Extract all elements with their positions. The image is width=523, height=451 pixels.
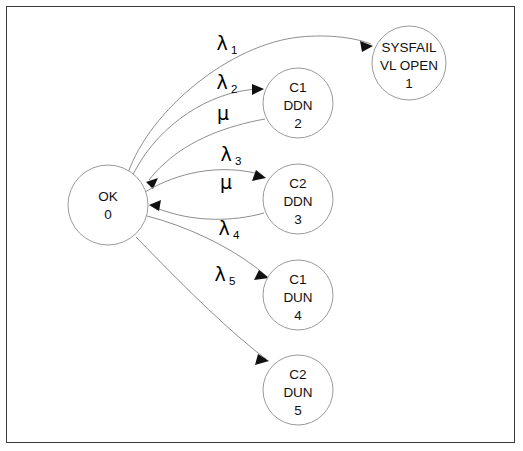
edge-label-lambda5: λ 5: [214, 263, 235, 287]
node-c2ddn-line2: DDN: [283, 194, 312, 209]
arrowhead-mu-2: [146, 178, 158, 189]
edge-label-lambda3: λ 3: [220, 143, 241, 167]
edge-label-lambda5-symbol: λ: [214, 263, 225, 285]
edge-path-lambda5: [136, 237, 266, 359]
edge-label-lambda1-symbol: λ: [216, 32, 227, 54]
node-c2ddn-line3: 3: [294, 212, 302, 227]
arrowhead-lambda3: [252, 170, 266, 181]
node-c2dun-line2: DUN: [283, 385, 312, 400]
node-c1ddn[interactable]: C1 DDN 2: [263, 68, 333, 138]
node-sysfail-line3: 1: [405, 76, 413, 91]
node-c2dun-line1: C2: [289, 367, 306, 382]
node-sysfail-line2: VL OPEN: [380, 58, 438, 73]
node-c1dun[interactable]: C1 DUN 4: [263, 260, 333, 330]
node-c1ddn-line2: DDN: [283, 98, 312, 113]
edge-c2ddn-to-ok: [149, 200, 264, 219]
node-c1dun-line3: 4: [294, 308, 302, 323]
edge-label-lambda2-subscript: 2: [231, 83, 237, 95]
edge-ok-to-c2dun: [136, 237, 269, 365]
edge-ok-to-c1dun: [147, 216, 269, 280]
edge-label-mu-2: μ: [217, 102, 229, 124]
edge-label-lambda4-subscript: 4: [233, 229, 240, 241]
edge-label-lambda1-subscript: 1: [231, 44, 237, 56]
node-c1dun-line1: C1: [289, 272, 306, 287]
edge-label-lambda3-symbol: λ: [220, 143, 231, 165]
node-sysfail[interactable]: SYSFAIL VL OPEN 1: [372, 26, 446, 100]
node-c2dun-line3: 5: [294, 403, 302, 418]
node-ok-circle[interactable]: [68, 165, 148, 245]
edge-ok-to-sysfail: [128, 36, 373, 173]
diagram-canvas: OK 0 SYSFAIL VL OPEN 1 C1 DDN 2 C2: [0, 0, 523, 451]
node-group: OK 0 SYSFAIL VL OPEN 1 C1 DDN 2 C2: [68, 26, 446, 425]
edge-label-lambda2: λ 2: [216, 71, 237, 95]
edge-label-lambda5-subscript: 5: [229, 275, 235, 287]
edge-path-lambda2: [131, 89, 261, 179]
arrowhead-lambda2: [252, 84, 264, 95]
node-c2ddn[interactable]: C2 DDN 3: [263, 164, 333, 234]
edge-label-lambda1: λ 1: [216, 32, 237, 56]
arrowhead-mu-3: [149, 200, 161, 211]
edge-ok-to-c2ddn: [145, 170, 266, 192]
node-c2ddn-line1: C2: [289, 176, 306, 191]
edge-label-lambda2-symbol: λ: [216, 71, 227, 93]
node-c1dun-line2: DUN: [283, 290, 312, 305]
edge-label-mu-2-symbol: μ: [217, 102, 229, 124]
edge-label-mu-3: μ: [220, 171, 232, 193]
edge-label-mu-3-symbol: μ: [220, 171, 232, 193]
edge-label-lambda3-subscript: 3: [235, 155, 241, 167]
edge-label-lambda4-symbol: λ: [218, 217, 229, 239]
edge-label-lambda4: λ 4: [218, 217, 240, 241]
state-diagram-figure: OK 0 SYSFAIL VL OPEN 1 C1 DDN 2 C2: [0, 0, 523, 451]
node-c1ddn-line1: C1: [289, 80, 306, 95]
edge-c1ddn-to-ok: [146, 119, 265, 189]
node-ok[interactable]: OK 0: [68, 165, 148, 245]
edge-path-lambda1: [128, 36, 371, 173]
node-c2dun[interactable]: C2 DUN 5: [263, 355, 333, 425]
edge-path-mu-3: [152, 206, 264, 219]
node-ok-line1: OK: [98, 189, 118, 204]
node-ok-line2: 0: [104, 207, 112, 222]
node-sysfail-line1: SYSFAIL: [382, 40, 437, 55]
edge-ok-to-c1ddn: [131, 84, 264, 179]
edge-path-lambda3: [145, 170, 263, 192]
edge-group: [128, 36, 373, 365]
node-c1ddn-line3: 2: [294, 116, 302, 131]
